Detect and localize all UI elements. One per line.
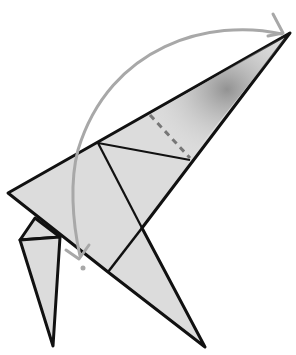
origami-diagram [0, 0, 296, 355]
left-leg [20, 218, 60, 346]
